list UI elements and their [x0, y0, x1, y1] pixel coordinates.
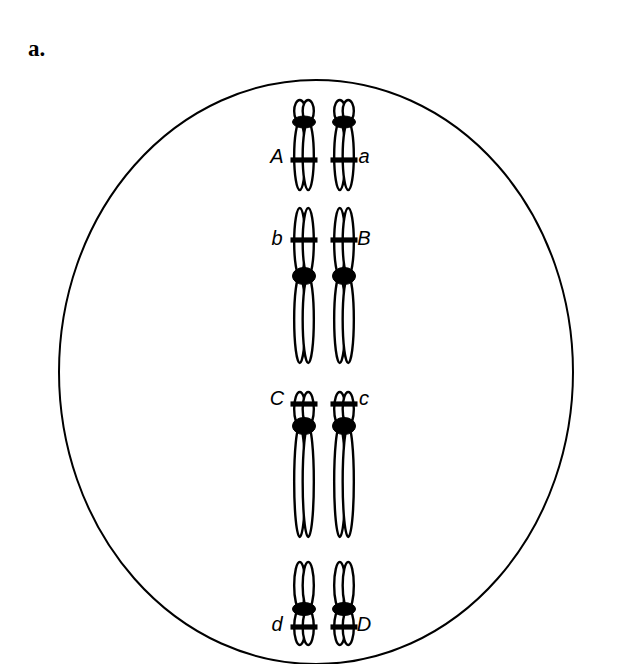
centromere — [293, 268, 316, 285]
centromere — [333, 418, 356, 435]
chromosome-right — [331, 392, 358, 537]
chromosome-left — [291, 100, 318, 190]
sister-chromatid-lower-arm — [343, 426, 354, 537]
sister-chromatid-lower-arm — [303, 426, 314, 537]
sister-chromatid-lower-arm — [343, 276, 354, 363]
sister-chromatid-lower-arm — [303, 276, 314, 363]
allele-label-right-1: a — [358, 145, 369, 167]
centromere — [293, 418, 316, 435]
gene-locus-band — [291, 157, 318, 162]
gene-locus-band — [291, 237, 318, 242]
allele-label-left-1: A — [269, 145, 283, 167]
sister-chromatid-lower-arm — [303, 122, 314, 190]
gene-locus-band — [331, 624, 358, 629]
centromere — [293, 116, 316, 128]
allele-label-left-2: b — [271, 227, 282, 249]
cell-diagram: AabBCcdD — [0, 0, 631, 664]
chromosome-left — [291, 392, 318, 537]
gene-locus-band — [331, 401, 358, 406]
cell-membrane-outline — [59, 80, 573, 664]
centromere — [333, 603, 356, 616]
allele-label-left-3: C — [270, 387, 285, 409]
allele-label-right-2: B — [357, 227, 370, 249]
centromere — [333, 268, 356, 285]
centromere — [333, 116, 356, 128]
gene-locus-band — [331, 237, 358, 242]
sister-chromatid-upper-arm — [343, 562, 354, 609]
gene-locus-band — [291, 624, 318, 629]
sister-chromatid-lower-arm — [343, 122, 354, 190]
allele-label-left-4: d — [271, 613, 283, 635]
chromosome-right — [331, 100, 358, 190]
allele-label-right-4: D — [357, 613, 371, 635]
allele-label-right-3: c — [359, 387, 369, 409]
sister-chromatid-upper-arm — [303, 562, 314, 609]
gene-locus-band — [331, 157, 358, 162]
gene-locus-band — [291, 401, 318, 406]
centromere — [293, 603, 316, 616]
figure-root: a. AabBCcdD — [0, 0, 631, 664]
